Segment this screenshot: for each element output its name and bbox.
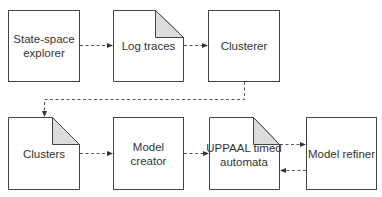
node-clusterer-label: Clusterer bbox=[209, 11, 279, 81]
node-model-creator-label: Model creator bbox=[114, 118, 183, 189]
edge-clusterer-clusters bbox=[45, 82, 245, 116]
node-explorer-label: State-space explorer bbox=[9, 11, 79, 81]
node-model-refiner-label: Model refiner bbox=[307, 118, 376, 189]
node-uppaal-label: UPPAAL timed automata bbox=[206, 132, 282, 178]
node-log-traces-label: Log traces bbox=[114, 11, 183, 81]
node-clusters-label: Clusters bbox=[9, 118, 79, 189]
